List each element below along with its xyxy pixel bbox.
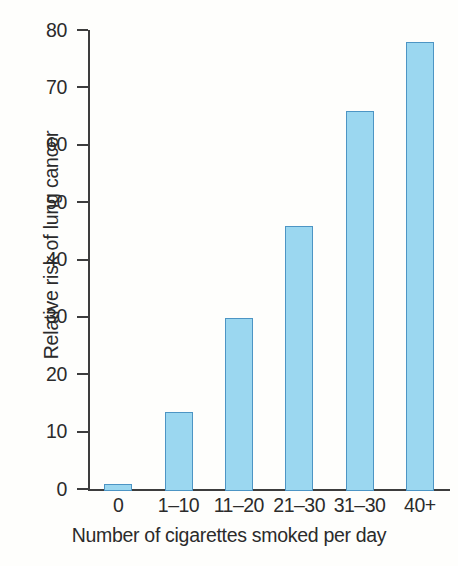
x-axis-tick-label: 21–30 (269, 494, 329, 520)
x-axis-tick-label: 11–20 (209, 494, 269, 520)
y-axis-tick-label: 20 (0, 364, 72, 384)
plot-area (88, 30, 450, 491)
x-axis-tick-label: 1–10 (148, 494, 208, 520)
y-axis-tick (77, 488, 88, 490)
y-axis-tick (77, 431, 88, 433)
y-axis-tick (77, 86, 88, 88)
y-axis-tick-label: 80 (0, 20, 72, 40)
bar (285, 226, 313, 491)
x-axis-tick-label: 40+ (390, 494, 450, 520)
bar (346, 111, 374, 491)
y-axis-tick-label: 50 (0, 192, 72, 212)
y-axis-tick-label: 60 (0, 135, 72, 155)
y-axis-tick-label: 30 (0, 307, 72, 327)
x-axis-tick-label: 0 (88, 494, 148, 520)
y-axis-tick-label: 70 (0, 77, 72, 97)
y-axis-title: Relative risk of lung cancer (34, 0, 68, 490)
x-axis-tick-label: 31–30 (329, 494, 389, 520)
x-axis-title: Number of cigarettes smoked per day (0, 524, 458, 547)
y-axis-tick (77, 373, 88, 375)
y-axis-tick-label: 40 (0, 250, 72, 270)
y-axis-tick (77, 144, 88, 146)
y-axis-tick (77, 259, 88, 261)
y-axis-tick (77, 29, 88, 31)
bar (225, 318, 253, 491)
y-axis-tick-label: 0 (0, 479, 72, 499)
bar (165, 412, 193, 491)
bar (406, 42, 434, 491)
y-axis-tick (77, 316, 88, 318)
bar (104, 484, 132, 491)
y-axis-tick-label: 10 (0, 422, 72, 442)
y-axis-tick (77, 201, 88, 203)
bar-chart-figure: Relative risk of lung cancer 01020304050… (0, 0, 458, 566)
